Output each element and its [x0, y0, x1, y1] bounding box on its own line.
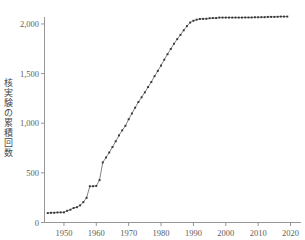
data-point-marker	[218, 17, 220, 19]
data-point-marker	[183, 29, 185, 31]
data-point-markers	[47, 16, 288, 214]
data-point-marker	[202, 18, 204, 20]
x-tick-label: 1990	[185, 228, 202, 238]
data-point-marker	[247, 17, 249, 19]
x-tick-label: 2000	[217, 228, 234, 238]
data-point-marker	[147, 86, 149, 88]
data-point-marker	[160, 65, 162, 67]
data-point-marker	[92, 185, 94, 187]
x-tick-label: 1970	[120, 228, 137, 238]
x-tick-label: 1950	[55, 228, 72, 238]
data-point-marker	[186, 25, 188, 27]
data-point-marker	[131, 113, 133, 115]
data-point-marker	[144, 91, 146, 93]
data-point-marker	[222, 17, 224, 19]
data-point-marker	[102, 161, 104, 163]
data-point-marker	[212, 17, 214, 19]
data-point-marker	[251, 17, 253, 19]
data-point-marker	[180, 34, 182, 36]
data-point-marker	[60, 211, 62, 213]
y-tick-label: 500	[26, 168, 39, 178]
data-point-marker	[157, 70, 159, 72]
data-point-marker	[167, 53, 169, 55]
y-tick-label: 0	[35, 218, 39, 228]
data-point-marker	[277, 16, 279, 18]
y-tick-label: 2,000	[20, 19, 39, 29]
data-point-marker	[199, 18, 201, 20]
data-point-marker	[241, 17, 243, 19]
y-tick-label: 1,500	[20, 69, 39, 79]
data-point-marker	[270, 16, 272, 18]
data-point-marker	[73, 207, 75, 209]
data-point-marker	[273, 16, 275, 18]
data-point-marker	[124, 125, 126, 127]
data-point-marker	[105, 157, 107, 159]
data-point-marker	[150, 81, 152, 83]
x-tick-label: 2020	[282, 228, 299, 238]
axis-tick-labels: 05001,0001,5002,000195019601970198019902…	[20, 19, 299, 238]
data-point-marker	[163, 59, 165, 61]
data-point-marker	[225, 17, 227, 19]
data-point-marker	[115, 140, 117, 142]
x-tick-label: 1960	[88, 228, 105, 238]
data-point-marker	[121, 129, 123, 131]
data-point-marker	[254, 16, 256, 18]
data-point-marker	[69, 209, 71, 211]
data-point-marker	[86, 197, 88, 199]
data-point-marker	[205, 18, 207, 20]
data-point-marker	[95, 185, 97, 187]
data-point-marker	[228, 17, 230, 19]
data-point-marker	[244, 17, 246, 19]
chart-plot-area: 05001,0001,5002,000195019601970198019902…	[0, 0, 305, 240]
y-tick-label: 1,000	[20, 118, 39, 128]
series-line-path	[48, 17, 288, 213]
data-point-marker	[170, 48, 172, 50]
data-point-marker	[192, 20, 194, 22]
data-point-marker	[257, 16, 259, 18]
data-point-marker	[112, 146, 114, 148]
data-point-marker	[89, 185, 91, 187]
data-point-marker	[154, 75, 156, 77]
data-point-marker	[215, 17, 217, 19]
data-series-cumulative-nuclear-tests	[48, 17, 288, 213]
data-point-marker	[134, 107, 136, 109]
data-point-marker	[264, 16, 266, 18]
data-point-marker	[66, 210, 68, 212]
data-point-marker	[173, 43, 175, 45]
data-point-marker	[280, 16, 282, 18]
data-point-marker	[118, 134, 120, 136]
data-point-marker	[82, 201, 84, 203]
data-point-marker	[53, 212, 55, 214]
x-tick-label: 1980	[153, 228, 170, 238]
data-point-marker	[209, 17, 211, 19]
data-point-marker	[196, 19, 198, 21]
x-tick-label: 2010	[250, 228, 267, 238]
data-point-marker	[189, 22, 191, 24]
axes	[45, 17, 302, 223]
data-point-marker	[47, 212, 49, 214]
data-point-marker	[50, 212, 52, 214]
data-point-marker	[57, 212, 59, 214]
data-point-marker	[63, 211, 65, 213]
data-point-marker	[108, 152, 110, 154]
data-point-marker	[141, 96, 143, 98]
axis-ticks	[41, 24, 291, 226]
data-point-marker	[99, 179, 101, 181]
data-point-marker	[283, 16, 285, 18]
chart-figure: 核実験の累積回数 05001,0001,5002,000195019601970…	[0, 0, 305, 240]
data-point-marker	[267, 16, 269, 18]
data-point-marker	[260, 16, 262, 18]
data-point-marker	[128, 118, 130, 120]
data-point-marker	[238, 17, 240, 19]
data-point-marker	[176, 38, 178, 40]
data-point-marker	[286, 16, 288, 18]
data-point-marker	[79, 204, 81, 206]
data-point-marker	[137, 101, 139, 103]
data-point-marker	[231, 17, 233, 19]
data-point-marker	[235, 17, 237, 19]
data-point-marker	[76, 206, 78, 208]
